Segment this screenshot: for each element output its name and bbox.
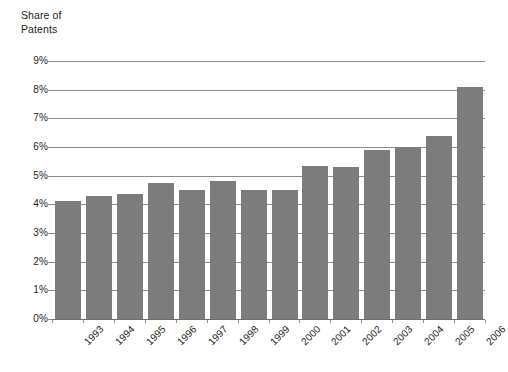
bar[interactable]: [148, 183, 174, 319]
chart-title-line-2: Patents: [21, 23, 57, 35]
x-axis-tick-label: 2002: [361, 324, 384, 347]
x-axis-tick-label: 2005: [454, 324, 477, 347]
bar[interactable]: [457, 87, 483, 319]
x-axis-tick-mark: [423, 320, 424, 323]
x-axis-tick-label: 2006: [485, 324, 508, 347]
y-axis-tick-label: 4%: [4, 199, 48, 209]
bar[interactable]: [117, 194, 143, 319]
y-axis: 0%1%2%3%4%5%6%7%8%9%: [0, 61, 48, 319]
x-axis-tick-mark: [238, 320, 239, 323]
x-axis-tick-label: 1993: [83, 324, 106, 347]
x-axis-tick-label: 1994: [114, 324, 137, 347]
x-axis-tick-mark: [299, 320, 300, 323]
x-axis-tick-label: 1996: [176, 324, 199, 347]
x-axis-tick-label: 1995: [145, 324, 168, 347]
y-axis-tick-label: 6%: [4, 142, 48, 152]
x-axis-tick-mark: [485, 320, 486, 323]
x-axis-tick-mark: [454, 320, 455, 323]
y-axis-tick-label: 0%: [4, 314, 48, 324]
x-axis-tick-label: 2003: [392, 324, 415, 347]
x-axis-tick-label: 1999: [269, 324, 292, 347]
x-axis-tick-mark: [114, 320, 115, 323]
x-axis-tick-label: 1998: [238, 324, 261, 347]
x-axis-tick-label: 2001: [330, 324, 353, 347]
y-axis-tick-label: 8%: [4, 85, 48, 95]
bar[interactable]: [210, 181, 236, 319]
x-axis-tick-mark: [176, 320, 177, 323]
bar[interactable]: [241, 190, 267, 319]
bar[interactable]: [55, 201, 81, 319]
x-axis-tick-mark: [52, 320, 53, 323]
bar[interactable]: [302, 166, 328, 319]
bar[interactable]: [179, 190, 205, 319]
y-axis-tick-label: 2%: [4, 257, 48, 267]
chart-title-line-1: Share of: [21, 9, 62, 21]
y-axis-tick-label: 5%: [4, 171, 48, 181]
y-axis-tick-label: 9%: [4, 56, 48, 66]
bar[interactable]: [426, 136, 452, 319]
x-axis-tick-mark: [83, 320, 84, 323]
x-axis-tick-mark: [361, 320, 362, 323]
bar[interactable]: [395, 147, 421, 319]
x-axis-tick-label: 1997: [207, 324, 230, 347]
y-axis-tick-label: 3%: [4, 228, 48, 238]
bar-series: [52, 61, 485, 319]
chart-title: Share ofPatents: [21, 8, 62, 36]
bar[interactable]: [272, 190, 298, 319]
plot-area: [52, 61, 485, 319]
x-axis-tick-mark: [330, 320, 331, 323]
x-axis: 1993199419951996199719981999200020012002…: [52, 320, 485, 372]
x-axis-tick-mark: [145, 320, 146, 323]
y-axis-tick-label: 1%: [4, 285, 48, 295]
x-axis-tick-mark: [269, 320, 270, 323]
bar[interactable]: [333, 167, 359, 319]
x-axis-tick-label: 2004: [423, 324, 446, 347]
x-axis-tick-mark: [392, 320, 393, 323]
bar[interactable]: [86, 196, 112, 319]
x-axis-tick-label: 2000: [300, 324, 323, 347]
bar[interactable]: [364, 150, 390, 319]
y-axis-tick-label: 7%: [4, 113, 48, 123]
x-axis-tick-mark: [207, 320, 208, 323]
